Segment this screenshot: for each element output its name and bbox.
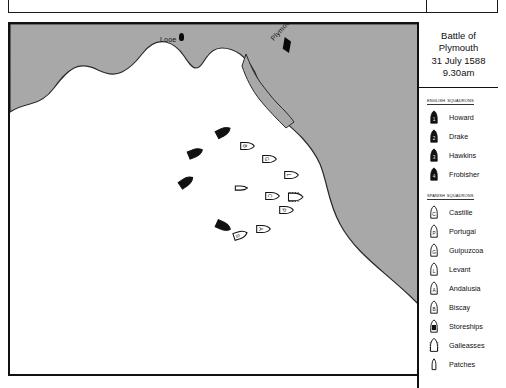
spanish-ship-icon: G [427,241,441,260]
spanish-ship-marker[interactable]: B [241,142,255,149]
english-ship-icon: 4 [427,165,441,184]
svg-text:P: P [281,208,287,212]
spanish-ship-icon: L [427,260,441,279]
legend-row-frobisher[interactable]: 4Frobisher [427,165,499,184]
svg-text:G: G [432,250,436,255]
spanish-ship-marker[interactable] [288,192,302,202]
legend-row-howard[interactable]: 1Howard [427,108,499,127]
spanish-ship-marker[interactable]: A [257,225,271,232]
svg-text:C: C [267,194,273,198]
legend-label: Guipuzcoa [449,246,483,255]
legend-row-portugal[interactable]: PPortugal [427,222,499,241]
title-line-3: 31 July 1588 [432,55,486,68]
english-ship-icon: 1 [427,108,441,127]
legend-title-box: Battle of Plymouth 31 July 1588 9.30am [419,22,498,88]
legend-label: Biscay [449,303,470,312]
spanish-ship-icon [427,317,441,336]
spanish-ship-icon: A [427,279,441,298]
svg-text:G: G [264,157,270,161]
legend-label: Andalusia [449,284,481,293]
battle-map-page: Looe Plymouth BGLCPAS Battle of Plymouth… [0,0,506,388]
legend-row-levant[interactable]: LLevant [427,260,499,279]
svg-text:P: P [432,231,435,236]
legend-row-hawkins[interactable]: 3Hawkins [427,146,499,165]
legend-label: Patches [449,360,475,369]
english-ship-icon: 3 [427,146,441,165]
spanish-ship-icon [427,336,441,355]
english-ship-marker[interactable] [178,174,195,189]
spanish-ship-marker[interactable] [235,186,247,190]
legend-row-storeships[interactable]: Storeships [427,317,499,336]
legend-label: Storeships [449,322,483,331]
svg-text:1: 1 [433,117,436,122]
spanish-ship-icon: P [427,222,441,241]
legend-row-castille[interactable]: CCastille [427,203,499,222]
legend-panel: Battle of Plymouth 31 July 1588 9.30am E… [417,22,498,388]
svg-text:B: B [242,144,248,148]
svg-text:C: C [432,212,436,217]
legend-row-patches[interactable]: Patches [427,355,499,374]
spanish-ship-icon: C [427,203,441,222]
legend-label: Levant [449,265,471,274]
legend-label: Castille [449,208,473,217]
top-panel-divider [426,0,427,13]
legend-label: Hawkins [449,151,476,160]
legend-row-galleasses[interactable]: Galleasses [427,336,499,355]
english-ship-icon: 2 [427,127,441,146]
spanish-ship-marker[interactable]: C [266,192,280,199]
legend-row-guipuzcoa[interactable]: GGuipuzcoa [427,241,499,260]
svg-text:A: A [258,227,264,231]
legend-row-drake[interactable]: 2Drake [427,127,499,146]
english-ship-marker[interactable] [187,146,204,159]
svg-text:2: 2 [433,136,436,141]
spanish-ship-icon [427,355,441,374]
legend-row-biscay[interactable]: BBiscay [427,298,499,317]
english-squadrons-header: English Squadrons [427,96,474,105]
legend-label: Frobisher [449,170,479,179]
legend-label: Portugal [449,227,476,236]
spanish-ship-marker[interactable]: L [285,171,299,178]
spanish-ship-marker[interactable]: P [280,206,294,213]
legend-row-andalusia[interactable]: AAndalusia [427,279,499,298]
english-ship-marker[interactable] [215,220,232,233]
spanish-ship-icon: B [427,298,441,317]
legend-label: Howard [449,113,474,122]
spanish-squadrons-header: Spanish Squadrons [427,191,474,200]
svg-text:B: B [432,307,435,312]
legend-label: Galleasses [449,341,485,350]
title-line-1: Battle of [441,30,476,43]
page-top-panel [8,0,498,13]
svg-text:4: 4 [433,174,436,179]
legend-label: Drake [449,132,468,141]
title-line-2: Plymouth [439,42,479,55]
spanish-ship-marker[interactable]: S [233,229,248,240]
svg-text:L: L [286,174,292,177]
svg-text:3: 3 [433,155,436,160]
svg-text:L: L [433,269,436,274]
spanish-ship-marker[interactable]: G [263,155,277,162]
title-line-4: 9.30am [443,67,475,80]
english-ship-marker[interactable] [215,125,232,139]
